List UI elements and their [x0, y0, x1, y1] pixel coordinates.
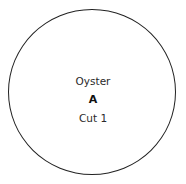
- node-label-name: Oyster: [0, 75, 186, 87]
- node-label-cut: Cut 1: [0, 112, 186, 124]
- node-label-id: A: [0, 93, 186, 106]
- circle-node: [8, 9, 176, 175]
